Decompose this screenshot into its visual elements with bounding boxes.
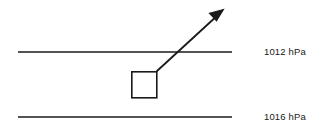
motion-arrow-head [210,10,224,21]
isobar-label-1016: 1016 hPa [264,112,306,122]
isobar-label-1012: 1012 hPa [264,47,306,57]
isobar-diagram: 1012 hPa 1016 hPa [0,0,329,133]
air-parcel-box [132,72,157,98]
motion-arrow-shaft [157,15,219,72]
